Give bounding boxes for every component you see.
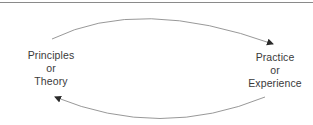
principles-or-theory-node: Principles or Theory — [12, 49, 90, 88]
node-left-line-1: Principles — [12, 49, 90, 62]
practice-or-experience-node: Practice or Experience — [236, 51, 313, 90]
node-right-line-1: Practice — [236, 51, 313, 64]
node-left-line-2: or — [12, 62, 90, 75]
node-right-line-3: Experience — [236, 77, 313, 90]
node-right-line-2: or — [236, 64, 313, 77]
top-arrow-left-to-right — [52, 19, 273, 44]
node-left-line-3: Theory — [12, 75, 90, 88]
bottom-arrow-right-to-left — [55, 97, 265, 119]
